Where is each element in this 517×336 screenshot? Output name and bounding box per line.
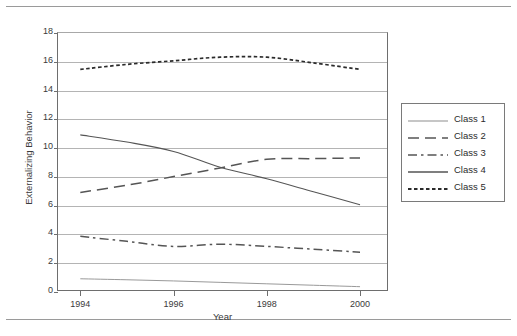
legend-label: Class 2 [454, 130, 486, 141]
y-tick-label: 16 [13, 56, 53, 65]
line-chart-figure: 024681012141618 1994199619982000 Year Ex… [0, 12, 517, 322]
x-tick-label: 1998 [244, 299, 290, 309]
series-line-class-5 [80, 57, 360, 70]
y-tick-label: 18 [13, 27, 53, 36]
x-tick-label: 1996 [151, 299, 197, 309]
chart-legend: Class 1Class 2Class 3Class 4Class 5 [401, 103, 505, 202]
y-axis-title: Externalizing Behavior [23, 73, 34, 243]
x-tick-mark [174, 291, 175, 296]
x-axis-tick-labels: 1994199619982000 [57, 291, 388, 297]
series-line-class-1 [80, 279, 360, 287]
legend-key-dash-dot-icon [407, 147, 449, 159]
x-tick-label: 1994 [57, 299, 103, 309]
legend-label: Class 1 [454, 113, 486, 124]
series-line-class-4 [80, 135, 360, 205]
legend-item-class-2[interactable]: Class 2 [407, 127, 498, 144]
legend-label: Class 5 [454, 181, 486, 192]
legend-label: Class 4 [454, 164, 486, 175]
page-rule-top [6, 6, 511, 7]
legend-key-solid-icon [407, 164, 449, 176]
series-line-class-2 [80, 158, 360, 193]
x-tick-mark [360, 291, 361, 296]
legend-key-solid-thin-icon [407, 113, 449, 125]
legend-key-long-dash-icon [407, 130, 449, 142]
legend-item-class-1[interactable]: Class 1 [407, 110, 498, 127]
y-tick-label: 0 [13, 286, 53, 295]
legend-item-class-4[interactable]: Class 4 [407, 161, 498, 178]
series-line-class-3 [80, 236, 360, 252]
legend-item-class-5[interactable]: Class 5 [407, 178, 498, 195]
legend-key-dotted-icon [407, 181, 449, 193]
series-lines [57, 32, 388, 291]
legend-item-class-3[interactable]: Class 3 [407, 144, 498, 161]
x-axis-title: Year [57, 311, 388, 322]
x-tick-mark [80, 291, 81, 296]
x-tick-label: 2000 [337, 299, 383, 309]
legend-label: Class 3 [454, 147, 486, 158]
y-tick-label: 2 [13, 257, 53, 266]
x-tick-mark [267, 291, 268, 296]
